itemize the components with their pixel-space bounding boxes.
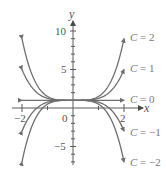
y-axis-label: y: [68, 7, 75, 21]
y-tick-label-0: 0: [62, 112, 68, 124]
y-tick-label-10: 10: [55, 25, 67, 37]
y-tick-label-neg5: −5: [54, 140, 66, 152]
curve-label-c1: C = 1: [130, 62, 155, 74]
family-of-curves-chart: −2 2 x 10 5 0 −5 y C = 2 C = 1 C = 0 C =…: [0, 0, 166, 178]
x-tick-label-neg2: −2: [14, 112, 26, 124]
curve-label-c2: C = 2: [130, 31, 155, 43]
curve-label-cneg1: C = −1: [130, 126, 161, 138]
curve-label-c0: C = 0: [130, 93, 155, 105]
x-tick-label-2: 2: [120, 112, 126, 124]
curve-label-cneg2: C = −2: [130, 156, 161, 168]
y-tick-label-5: 5: [61, 63, 67, 75]
